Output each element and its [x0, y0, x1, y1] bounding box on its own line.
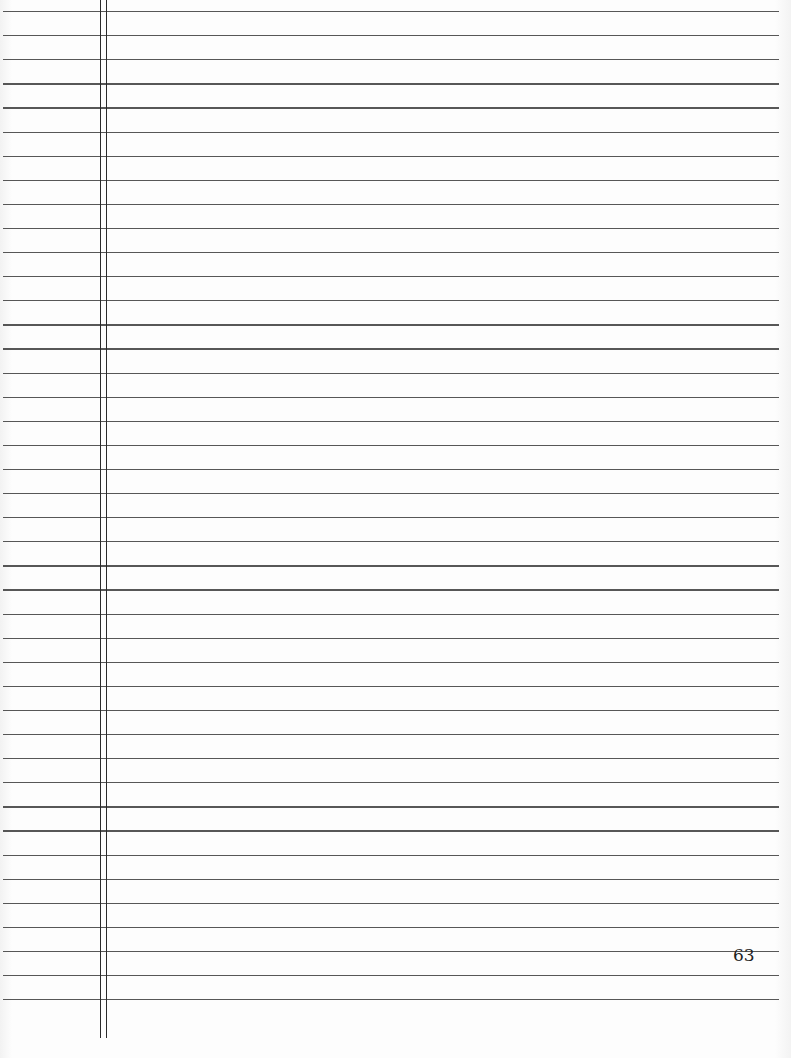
ruled-line: [3, 975, 779, 976]
ruled-line: [3, 35, 779, 36]
ruled-line: [3, 614, 779, 615]
ruled-line: [3, 662, 779, 663]
ruled-line: [3, 107, 779, 108]
ruled-line: [3, 565, 779, 566]
ruled-line: [3, 855, 779, 856]
ruled-line: [3, 348, 779, 349]
ruled-line: [3, 59, 779, 60]
ruled-line: [3, 710, 779, 711]
ruled-line: [3, 132, 779, 133]
ruled-line: [3, 276, 779, 277]
ruled-line: [3, 927, 779, 928]
ruled-line: [3, 252, 779, 253]
ruled-line: [3, 517, 779, 518]
ruled-line: [3, 324, 779, 325]
ruled-line: [3, 830, 779, 831]
margin-line-left: [100, 0, 101, 1038]
ruled-line: [3, 589, 779, 590]
ruled-line: [3, 686, 779, 687]
ruled-line: [3, 156, 779, 157]
ruled-line: [3, 638, 779, 639]
margin-line-right: [106, 0, 107, 1038]
ruled-line: [3, 806, 779, 807]
ruled-line: [3, 180, 779, 181]
ruled-line: [3, 373, 779, 374]
ruled-line: [3, 11, 779, 12]
ruled-line: [3, 879, 779, 880]
ruled-line: [3, 228, 779, 229]
ruled-line: [3, 83, 779, 84]
ruled-line: [3, 903, 779, 904]
ruled-line: [3, 758, 779, 759]
ruled-line: [3, 469, 779, 470]
ruled-line: [3, 541, 779, 542]
ruled-line: [3, 445, 779, 446]
ruled-line: [3, 493, 779, 494]
ruled-line: [3, 397, 779, 398]
ruled-line: [3, 782, 779, 783]
ruled-line: [3, 951, 779, 952]
ruled-line: [3, 204, 779, 205]
ruled-line: [3, 734, 779, 735]
ruled-line: [3, 300, 779, 301]
notebook-page: 63: [0, 0, 791, 1058]
page-number: 63: [733, 945, 755, 965]
ruled-line: [3, 999, 779, 1000]
ruled-line: [3, 421, 779, 422]
